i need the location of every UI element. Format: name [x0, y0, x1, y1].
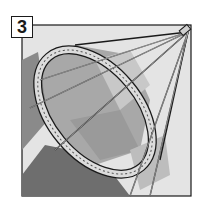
instruction-illustration: 3 [0, 0, 212, 217]
step-number-badge: 3 [11, 16, 33, 38]
